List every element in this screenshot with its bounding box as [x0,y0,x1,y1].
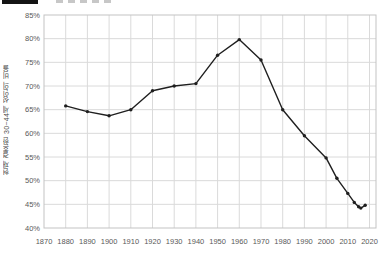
x-tick-label: 1870 [36,237,53,246]
x-tick-label: 1890 [79,237,96,246]
cropped-legend-text [56,0,116,3]
data-point-marker [281,108,284,111]
chart: 현재 결혼한 30~44세 성인의 비율 1870188018901900191… [0,0,379,255]
y-tick-label: 75% [25,58,40,67]
data-point-marker [129,108,132,111]
data-point-marker [216,54,219,57]
y-tick-label: 40% [25,224,40,233]
data-point-marker [324,156,327,159]
legend-line-swatch [2,0,38,4]
x-tick-label: 1990 [296,237,313,246]
x-tick-label: 1920 [144,237,161,246]
y-tick-label: 60% [25,129,40,138]
y-tick-label: 45% [25,200,40,209]
x-tick-label: 1900 [101,237,118,246]
data-point-marker [303,134,306,137]
data-point-marker [86,110,89,113]
x-tick-label: 1940 [188,237,205,246]
y-axis-title: 현재 결혼한 30~44세 성인의 비율 [1,52,12,188]
data-point-marker [107,114,110,117]
data-point-marker [353,201,356,204]
data-point-marker [259,58,262,61]
data-point-marker [194,82,197,85]
data-point-marker [335,177,338,180]
data-point-marker [346,192,349,195]
y-tick-label: 80% [25,34,40,43]
data-point-marker [238,38,241,41]
y-tick-label: 55% [25,153,40,162]
data-point-marker [151,89,154,92]
data-line [66,40,366,209]
data-point-marker [359,206,362,209]
x-tick-label: 2020 [361,237,378,246]
y-tick-label: 65% [25,105,40,114]
x-tick-label: 2010 [339,237,356,246]
data-point-marker [64,104,67,107]
x-tick-label: 1960 [231,237,248,246]
x-tick-label: 1910 [122,237,139,246]
x-tick-label: 1930 [166,237,183,246]
x-tick-label: 1980 [274,237,291,246]
x-tick-label: 1950 [209,237,226,246]
x-tick-label: 1880 [57,237,74,246]
plot-area: 1870188018901900191019201930194019501960… [0,0,379,255]
data-point-marker [173,84,176,87]
y-tick-label: 70% [25,82,40,91]
data-point-marker [364,204,367,207]
x-tick-label: 2000 [318,237,335,246]
y-tick-label: 85% [25,11,40,20]
x-tick-label: 1970 [253,237,270,246]
y-tick-label: 50% [25,176,40,185]
